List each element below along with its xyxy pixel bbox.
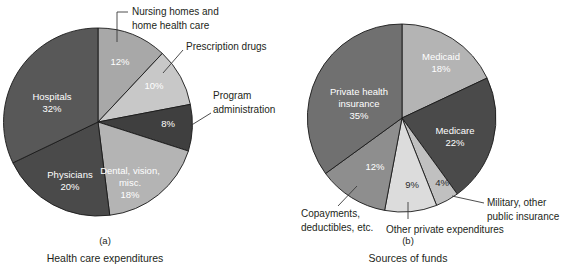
slice-label-dental-line2: misc. [119, 177, 141, 188]
chart-a-panel-letter: (a) [99, 235, 111, 246]
slice-label-other-private-pct: 9% [405, 179, 419, 190]
slice-label-hospitals-name: Hospitals [32, 91, 71, 102]
callout-nursing-homes-line2: home health care [132, 20, 210, 31]
slice-label-hospitals-pct: 32% [42, 103, 62, 114]
callout-nursing-homes-line1: Nursing homes and [132, 6, 219, 17]
slice-label-medicaid-name: Medicaid [422, 51, 460, 62]
slice-label-program-pct: 8% [161, 118, 175, 129]
slice-label-phi-pct: 35% [349, 110, 369, 121]
chart-b-panel-letter: (b) [402, 235, 414, 246]
slice-label-dental-pct: 18% [120, 189, 140, 200]
callout-program-administration-line2: administration [213, 104, 275, 115]
callout-other-private: Other private expenditures [386, 224, 504, 235]
callout-copayments-line2: deductibles, etc. [301, 222, 373, 233]
slice-label-physicians-pct: 20% [60, 181, 80, 192]
callout-program-administration-line1: Program [213, 90, 251, 101]
callout-military-line2: public insurance [487, 211, 560, 222]
slice-label-nursing-pct: 12% [110, 56, 130, 67]
pie-chart-figure: 12% 10% 8% Dental, vision, misc. 18% Phy… [0, 0, 561, 272]
slice-label-medicare-name: Medicare [435, 125, 474, 136]
callout-military-line1: Military, other [487, 197, 547, 208]
slice-label-copayments-pct: 12% [365, 161, 385, 172]
slice-label-medicare-pct: 22% [445, 137, 465, 148]
slice-label-phi-line2: insurance [338, 98, 379, 109]
slice-label-physicians-name: Physicians [47, 169, 93, 180]
slice-label-dental-line1: Dental, vision, [100, 165, 160, 176]
chart-b-caption: Sources of funds [369, 252, 448, 264]
callout-prescription-drugs: Prescription drugs [186, 41, 267, 52]
callout-copayments-line1: Copayments, [301, 208, 360, 219]
chart-a-caption: Health care expenditures [47, 252, 164, 264]
slice-label-military-pct: 4% [435, 177, 449, 188]
slice-label-medicaid-pct: 18% [431, 63, 451, 74]
slice-label-prescription-pct: 10% [144, 80, 164, 91]
slice-label-phi-line1: Private health [330, 86, 388, 97]
